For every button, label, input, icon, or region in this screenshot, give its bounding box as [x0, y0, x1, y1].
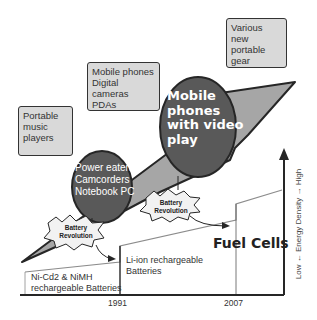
- box-line: Mobile phones: [92, 66, 155, 77]
- box-line: Portable: [23, 110, 68, 121]
- circle-line: with video: [167, 118, 243, 133]
- battery-evolution-diagram: Portable music players Mobile phones Dig…: [0, 0, 317, 320]
- box-line: PDAs: [92, 99, 155, 110]
- power-eaters-text: Power eaters: Camcorders Notebook PC: [75, 162, 137, 198]
- new-portable-gear-box: Various new portable gear: [226, 18, 287, 68]
- burst-line: Revolution: [148, 207, 194, 215]
- battery-revolution-label-1: Battery Revolution: [54, 224, 98, 240]
- burst-line: Battery: [54, 224, 98, 232]
- battery-revolution-label-2: Battery Revolution: [148, 199, 194, 215]
- nicd-nimh-label: Ni-Cd2 & NiMH rechargeable Batteries: [31, 272, 122, 294]
- box-line: Digital cameras: [92, 77, 155, 99]
- mobile-devices-box: Mobile phones Digital cameras PDAs: [87, 62, 160, 111]
- circle-line: Mobile: [167, 89, 243, 104]
- box-line: players: [23, 132, 68, 143]
- step-line-text: rechargeable Batteries: [31, 283, 122, 294]
- x-tick-1991: 1991: [108, 298, 127, 308]
- y-axis-arrowhead: [279, 148, 289, 160]
- circle-line: Notebook PC: [75, 186, 137, 198]
- circle-line: Camcorders: [75, 174, 137, 186]
- box-line: music: [23, 121, 68, 132]
- energy-density-axis-label: Low ← Energy Density → High: [294, 169, 303, 279]
- box-line: Various new: [231, 22, 282, 44]
- step-line-text: Li-ion rechargeable: [126, 255, 203, 266]
- circle-line: Power eaters:: [75, 162, 137, 174]
- box-line: gear: [231, 55, 282, 66]
- li-ion-label: Li-ion rechargeable Batteries: [126, 255, 203, 277]
- fuel-cells-label: Fuel Cells: [213, 235, 289, 251]
- video-phones-text: Mobile phones with video play: [167, 89, 243, 147]
- circle-line: play: [167, 133, 243, 148]
- burst-line: Revolution: [54, 232, 98, 240]
- step-line-text: Ni-Cd2 & NiMH: [31, 272, 122, 283]
- step-line-text: Batteries: [126, 266, 203, 277]
- circle-line: phones: [167, 104, 243, 119]
- x-tick-2007: 2007: [224, 298, 243, 308]
- box-line: portable: [231, 44, 282, 55]
- portable-music-players-box: Portable music players: [18, 106, 73, 156]
- burst-2-pointer: [190, 216, 226, 226]
- burst-line: Battery: [148, 199, 194, 207]
